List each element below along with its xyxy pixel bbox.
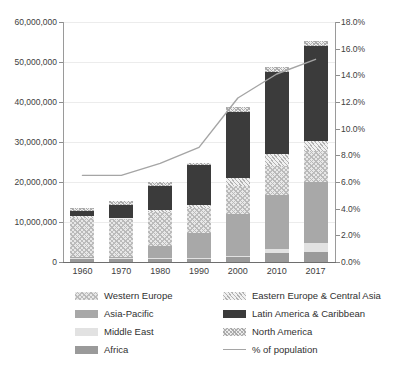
x-axis-tick-label: 1980 xyxy=(140,266,180,276)
y-axis-right-tick xyxy=(336,129,340,130)
y-axis-right-tick-label: 14.0% xyxy=(341,71,397,80)
y-axis-right-line xyxy=(335,22,336,263)
y-axis-left-tick-label: 60,000,000 xyxy=(0,18,57,27)
legend-label: Asia-Pacific xyxy=(104,309,154,319)
legend-label: % of population xyxy=(252,345,318,355)
legend-item[interactable]: Asia-Pacific xyxy=(75,309,154,319)
y-axis-right-tick-label: 18.0% xyxy=(341,18,397,27)
chart-legend: Western EuropeEastern Europe & Central A… xyxy=(63,291,397,363)
y-axis-right-tick xyxy=(336,262,340,263)
legend-label: North America xyxy=(252,327,312,337)
y-axis-right-tick xyxy=(336,235,340,236)
swatch-north-america-icon xyxy=(223,328,246,336)
x-axis-tick-label: 2017 xyxy=(296,266,336,276)
y-axis-right-tick-label: 10.0% xyxy=(341,125,397,134)
y-axis-right-tick xyxy=(336,102,340,103)
y-axis-right-tick-label: 0.0% xyxy=(341,258,397,267)
y-axis-left-tick-label: 20,000,000 xyxy=(0,178,57,187)
swatch-africa-icon xyxy=(75,346,98,354)
legend-item[interactable]: Western Europe xyxy=(75,291,172,301)
legend-item[interactable]: Latin America & Caribbean xyxy=(223,309,365,319)
x-axis-tick-label: 2010 xyxy=(257,266,297,276)
swatch-percent-of-population-icon xyxy=(223,346,246,354)
legend-item[interactable]: Africa xyxy=(75,345,128,355)
y-axis-left-tick xyxy=(59,262,63,263)
y-axis-right-tick-label: 12.0% xyxy=(341,98,397,107)
y-axis-right-tick-label: 2.0% xyxy=(341,231,397,240)
y-axis-right-tick xyxy=(336,182,340,183)
legend-item[interactable]: North America xyxy=(223,327,312,337)
y-axis-right-tick xyxy=(336,155,340,156)
legend-item[interactable]: Eastern Europe & Central Asia xyxy=(223,291,381,301)
x-axis-tick-label: 1990 xyxy=(179,266,219,276)
y-axis-right-tick xyxy=(336,75,340,76)
x-axis-tick-label: 2000 xyxy=(218,266,258,276)
chart-figure: 010,000,00020,000,00030,000,00040,000,00… xyxy=(0,0,400,378)
y-axis-right-tick-label: 6.0% xyxy=(341,178,397,187)
y-axis-left-tick-label: 40,000,000 xyxy=(0,98,57,107)
y-axis-right-tick xyxy=(336,209,340,210)
legend-row: Middle EastNorth America xyxy=(63,327,397,345)
y-axis-left-tick-label: 50,000,000 xyxy=(0,58,57,67)
y-axis-left-tick-label: 10,000,000 xyxy=(0,218,57,227)
percent-of-population-line xyxy=(63,22,335,262)
legend-item[interactable]: % of population xyxy=(223,345,318,355)
x-axis-tick-label: 1960 xyxy=(62,266,102,276)
x-axis-tick-label: 1970 xyxy=(101,266,141,276)
y-axis-left-tick-label: 30,000,000 xyxy=(0,138,57,147)
legend-row: Western EuropeEastern Europe & Central A… xyxy=(63,291,397,309)
y-axis-left-tick-label: 0 xyxy=(0,258,57,267)
swatch-middle-east-icon xyxy=(75,328,98,336)
legend-label: Western Europe xyxy=(104,291,172,301)
legend-row: Africa% of population xyxy=(63,345,397,363)
swatch-asia-pacific-icon xyxy=(75,310,98,318)
swatch-western-europe-icon xyxy=(75,292,98,300)
legend-label: Africa xyxy=(104,345,128,355)
x-axis-line xyxy=(63,262,336,263)
legend-row: Asia-PacificLatin America & Caribbean xyxy=(63,309,397,327)
swatch-latin-america-caribbean-icon xyxy=(223,310,246,318)
y-axis-right-tick xyxy=(336,22,340,23)
swatch-eastern-europe-central-asia-icon xyxy=(223,292,246,300)
y-axis-right-tick-label: 4.0% xyxy=(341,205,397,214)
y-axis-right-tick-label: 8.0% xyxy=(341,151,397,160)
legend-item[interactable]: Middle East xyxy=(75,327,154,337)
legend-label: Latin America & Caribbean xyxy=(252,309,365,319)
y-axis-right-tick xyxy=(336,49,340,50)
legend-label: Middle East xyxy=(104,327,154,337)
y-axis-right-tick-label: 16.0% xyxy=(341,45,397,54)
legend-label: Eastern Europe & Central Asia xyxy=(252,291,381,301)
